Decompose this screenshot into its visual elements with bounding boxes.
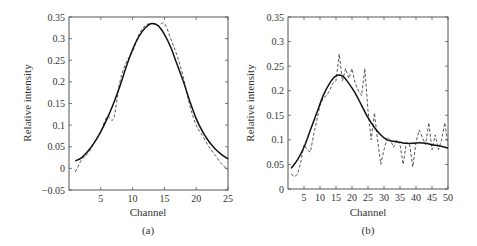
x-tick-label: 25 bbox=[223, 193, 233, 204]
x-tick-label: 25 bbox=[363, 192, 373, 203]
y-tick-label: 0 bbox=[60, 163, 65, 174]
x-tick-label: 15 bbox=[159, 193, 169, 204]
fitted-line-b bbox=[291, 75, 448, 168]
measured-line-a bbox=[75, 23, 228, 172]
figure: −0.0500.050.10.150.20.250.30.35 51015202… bbox=[0, 0, 477, 246]
x-tick-label: 10 bbox=[128, 193, 138, 204]
y-tick-label: 0.1 bbox=[272, 134, 285, 145]
x-tick-label: 5 bbox=[98, 193, 103, 204]
fitted-line-a bbox=[75, 23, 228, 161]
plot-area-frame-a bbox=[69, 17, 228, 190]
y-tick-label: 0.2 bbox=[272, 85, 285, 96]
y-axis-ticks-a: −0.0500.050.10.150.20.250.30.35 bbox=[42, 12, 228, 196]
x-axis-label-b: Channel bbox=[350, 206, 387, 218]
panel-label-a: (a) bbox=[142, 224, 155, 237]
plot-area-frame-b bbox=[288, 17, 448, 189]
x-axis-ticks-a: 510152025 bbox=[98, 17, 233, 204]
y-axis-ticks-b: 00.050.10.150.20.250.30.35 bbox=[267, 12, 449, 195]
x-tick-label: 45 bbox=[427, 192, 437, 203]
y-tick-label: 0.05 bbox=[267, 159, 285, 170]
x-tick-label: 20 bbox=[347, 192, 357, 203]
x-tick-label: 5 bbox=[302, 192, 307, 203]
x-tick-label: 20 bbox=[191, 193, 201, 204]
y-tick-label: 0.25 bbox=[267, 61, 285, 72]
y-axis-label-b: Relative intensity bbox=[244, 64, 256, 142]
chart-panel-b: 00.050.10.150.20.250.30.35 5101520253035… bbox=[244, 12, 453, 238]
y-tick-label: 0.3 bbox=[53, 33, 66, 44]
y-tick-label: 0.35 bbox=[267, 12, 285, 23]
y-tick-label: 0.15 bbox=[267, 110, 285, 121]
x-axis-ticks-b: 5101520253035404550 bbox=[302, 17, 454, 203]
measured-line-b bbox=[291, 54, 448, 177]
chart-panel-a: −0.0500.050.10.150.20.250.30.35 51015202… bbox=[21, 12, 233, 238]
y-tick-label: 0.05 bbox=[48, 141, 66, 152]
x-tick-label: 40 bbox=[411, 192, 421, 203]
x-axis-label-a: Channel bbox=[130, 206, 167, 218]
y-tick-label: 0.2 bbox=[53, 76, 66, 87]
x-tick-label: 35 bbox=[395, 192, 405, 203]
x-tick-label: 50 bbox=[443, 192, 453, 203]
y-axis-label-a: Relative intensity bbox=[21, 64, 33, 142]
y-tick-label: 0.25 bbox=[48, 55, 66, 66]
x-tick-label: 30 bbox=[379, 192, 389, 203]
y-tick-label: −0.05 bbox=[42, 185, 65, 196]
y-tick-label: 0.15 bbox=[48, 98, 66, 109]
y-tick-label: 0.35 bbox=[48, 12, 66, 23]
x-tick-label: 10 bbox=[315, 192, 325, 203]
y-tick-label: 0.3 bbox=[272, 36, 285, 47]
panel-label-b: (b) bbox=[362, 224, 375, 237]
y-tick-label: 0 bbox=[279, 184, 284, 195]
x-tick-label: 15 bbox=[331, 192, 341, 203]
y-tick-label: 0.1 bbox=[53, 120, 66, 131]
